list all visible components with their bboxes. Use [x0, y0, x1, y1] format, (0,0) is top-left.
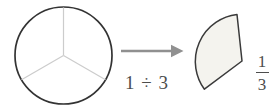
figure-canvas: 1 ÷ 3 1 3: [0, 0, 273, 109]
arrow-icon: [121, 45, 184, 57]
division-expression: 1 ÷ 3: [120, 73, 174, 93]
fraction-numerator: 1: [258, 52, 267, 71]
one-third-sector: [195, 15, 242, 90]
arrow-head: [171, 45, 184, 57]
divider-line-lower-right: [64, 56, 106, 80]
divider-line-lower-left: [22, 56, 64, 80]
fraction-denominator: 3: [258, 75, 267, 94]
fraction-bar: [256, 72, 269, 73]
fraction-one-third: 1 3: [252, 52, 272, 94]
third-divider-lines: [22, 8, 106, 80]
